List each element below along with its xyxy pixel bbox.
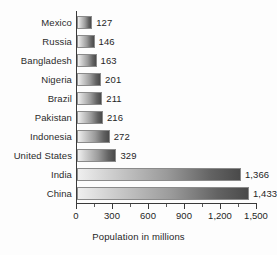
x-axis-minor-tick xyxy=(130,204,131,207)
bar-value-label: 127 xyxy=(96,16,112,29)
category-label: China xyxy=(0,187,72,200)
bar xyxy=(77,54,97,67)
bar-value-label: 211 xyxy=(106,92,121,105)
x-axis-tick-label: 0 xyxy=(56,210,96,222)
x-axis-tick-label: 600 xyxy=(128,210,168,222)
bar xyxy=(77,16,92,29)
bar-value-label: 216 xyxy=(107,111,123,124)
category-label: India xyxy=(0,168,72,181)
x-axis-major-tick xyxy=(220,204,221,209)
x-axis-major-tick xyxy=(76,204,77,209)
bar xyxy=(77,187,249,200)
x-axis-minor-tick xyxy=(94,204,95,207)
bar xyxy=(77,130,110,143)
bar xyxy=(77,149,116,162)
category-label: Indonesia xyxy=(0,130,72,143)
bar xyxy=(77,92,102,105)
bar xyxy=(77,35,95,48)
x-axis-tick-label: 900 xyxy=(164,210,204,222)
x-axis-minor-tick xyxy=(238,204,239,207)
bar-value-label: 272 xyxy=(114,130,130,143)
x-axis-tick-label: 300 xyxy=(92,210,132,222)
x-axis-minor-tick xyxy=(202,204,203,207)
bar xyxy=(77,73,101,86)
x-axis-title: Population in millions xyxy=(0,231,277,242)
bar-value-label: 1,366 xyxy=(245,168,269,181)
x-axis-minor-tick xyxy=(166,204,167,207)
x-axis-tick-label: 1,500 xyxy=(236,210,276,222)
category-label: Bangladesh xyxy=(0,54,72,67)
bar xyxy=(77,168,241,181)
category-label: Russia xyxy=(0,35,72,48)
bar-chart: MexicoRussiaBangladeshNigeriaBrazilPakis… xyxy=(0,0,277,255)
bar-value-label: 146 xyxy=(99,35,115,48)
bar-value-label: 329 xyxy=(120,149,136,162)
x-axis-major-tick xyxy=(112,204,113,209)
bar xyxy=(77,111,103,124)
x-axis-major-tick xyxy=(184,204,185,209)
category-label: Brazil xyxy=(0,92,72,105)
category-label: Pakistan xyxy=(0,111,72,124)
category-label: Mexico xyxy=(0,16,72,29)
bar-value-label: 1,433 xyxy=(253,187,277,200)
x-axis-tick-label: 1,200 xyxy=(200,210,240,222)
category-label: United States xyxy=(0,149,72,162)
category-label: Nigeria xyxy=(0,73,72,86)
bar-value-label: 201 xyxy=(105,73,121,86)
x-axis-major-tick xyxy=(148,204,149,209)
x-axis-major-tick xyxy=(256,204,257,209)
bar-value-label: 163 xyxy=(101,54,117,67)
